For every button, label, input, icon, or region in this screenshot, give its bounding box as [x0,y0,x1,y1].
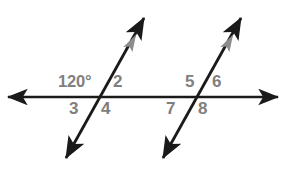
angle-4-label: 4 [101,100,110,117]
angle-7-label: 7 [166,100,175,117]
angle-6-label: 6 [212,73,221,90]
parallel-marks-group [123,35,233,52]
angle-8-label: 8 [198,100,207,117]
angle-2-label: 2 [113,73,122,90]
angle-5-label: 5 [185,73,194,90]
geometry-figure: 120°2345678 [0,0,286,170]
geometry-diagram-svg [0,0,286,170]
lines-group [8,18,278,158]
angle-1-label: 120° [58,73,91,90]
angle-3-label: 3 [69,100,78,117]
